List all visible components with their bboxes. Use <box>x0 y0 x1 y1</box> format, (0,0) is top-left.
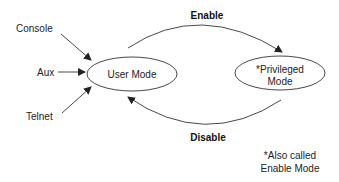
user-mode-label: User Mode <box>108 69 157 80</box>
mode-diagram: Console Aux Telnet User Mode *Privileged… <box>0 0 339 182</box>
disable-transition-arrow <box>128 97 281 124</box>
input-label-console: Console <box>16 23 53 34</box>
disable-label: Disable <box>190 132 226 143</box>
input-label-telnet: Telnet <box>26 111 53 122</box>
footnote-line1: *Also called <box>264 150 316 161</box>
input-label-aux: Aux <box>37 67 54 78</box>
footnote-line2: Enable Mode <box>261 163 320 174</box>
arrow-telnet <box>62 87 91 113</box>
enable-transition-arrow <box>128 25 282 52</box>
privileged-mode-label-line1: *Privileged <box>256 64 304 75</box>
arrow-console <box>61 34 91 60</box>
privileged-mode-label-line2: Mode <box>267 76 292 87</box>
enable-label: Enable <box>191 10 224 21</box>
